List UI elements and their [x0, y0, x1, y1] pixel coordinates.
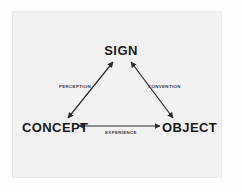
semiotic-triangle-figure: SIGN CONCEPT OBJECT PERCEPTION CONVENTIO… [0, 0, 242, 193]
diagram-canvas [0, 0, 242, 193]
edge-label-perception: PERCEPTION [59, 84, 91, 89]
edge-perception-line [68, 62, 113, 118]
edge-convention-line [131, 62, 173, 118]
node-label-sign: SIGN [0, 43, 242, 58]
edge-label-convention: CONVENTION [148, 84, 181, 89]
edge-label-experience: EXPERIENCE [0, 130, 242, 135]
